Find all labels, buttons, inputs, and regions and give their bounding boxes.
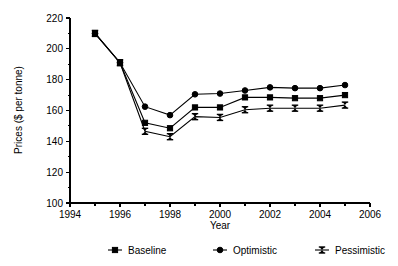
legend-baseline-square-marker [112, 247, 117, 252]
legend-label-pessimistic: Pessimistic [335, 245, 385, 256]
series-optimistic-pt9-circle-marker [317, 85, 323, 91]
x-tick-label: 2000 [209, 209, 232, 220]
series-optimistic-pt5-circle-marker [217, 91, 223, 97]
y-tick-label: 180 [46, 74, 63, 85]
series-baseline-pt4-square-marker [192, 105, 197, 110]
x-tick-label: 1998 [159, 209, 182, 220]
x-tick-label: 2004 [309, 209, 332, 220]
series-baseline-pt9-square-marker [317, 96, 322, 101]
x-tick-label: 1994 [59, 209, 82, 220]
legend-optimistic-circle-marker [217, 247, 223, 253]
series-baseline-pt8-square-marker [292, 96, 297, 101]
y-tick-label: 200 [46, 43, 63, 54]
x-tick-label: 2006 [359, 209, 382, 220]
series-optimistic-pt4-circle-marker [192, 92, 198, 98]
series-optimistic-pt10-circle-marker [342, 82, 348, 88]
series-baseline-pt6-square-marker [242, 95, 247, 100]
y-tick-label: 160 [46, 105, 63, 116]
series-baseline-pt2-square-marker [142, 120, 147, 125]
x-tick-label: 2002 [259, 209, 282, 220]
y-tick-label: 220 [46, 13, 63, 24]
legend-label-optimistic: Optimistic [233, 245, 277, 256]
y-tick-label: 140 [46, 136, 63, 147]
y-axis-title: Prices ($ per tonne) [13, 66, 24, 154]
series-optimistic-pt6-circle-marker [242, 88, 248, 94]
legend-label-baseline: Baseline [128, 245, 167, 256]
chart-background [0, 0, 398, 266]
series-optimistic-pt7-circle-marker [267, 85, 273, 91]
series-baseline-pt3-square-marker [167, 126, 172, 131]
x-axis-title: Year [210, 220, 231, 231]
series-baseline-pt7-square-marker [267, 95, 272, 100]
x-tick-label: 1996 [109, 209, 132, 220]
chart-legend: BaselineOptimisticPessimistic [108, 245, 385, 256]
chart-canvas: 100120140160180200220 199419961998200020… [0, 0, 398, 266]
series-baseline-pt5-square-marker [217, 105, 222, 110]
y-tick-label: 120 [46, 167, 63, 178]
series-optimistic-pt3-circle-marker [167, 112, 173, 118]
series-optimistic-pt8-circle-marker [292, 85, 298, 91]
series-baseline-pt10-square-marker [342, 92, 347, 97]
series-optimistic-pt2-circle-marker [142, 104, 148, 110]
y-tick-label: 100 [46, 198, 63, 209]
price-forecast-chart: 100120140160180200220 199419961998200020… [0, 0, 398, 266]
